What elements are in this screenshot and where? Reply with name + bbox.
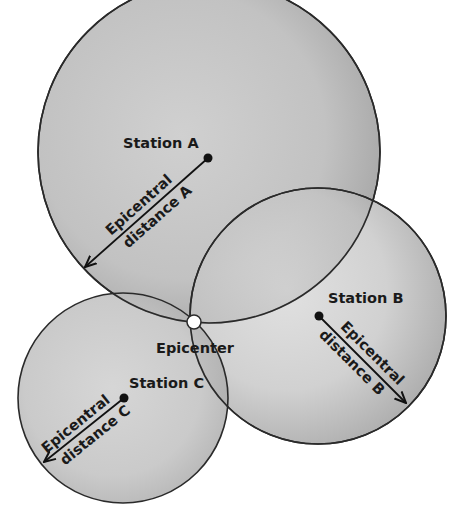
station-a-dot (204, 154, 213, 163)
station-c-label: Station C (129, 375, 204, 391)
epicenter-diagram: Station A Epicentral distance A Station … (0, 0, 474, 520)
station-b-label: Station B (328, 290, 403, 306)
epicenter-label: Epicenter (156, 340, 235, 356)
station-a-label: Station A (123, 135, 199, 151)
station-c-dot (120, 394, 129, 403)
epicenter-marker (187, 315, 201, 329)
station-b-dot (315, 312, 324, 321)
